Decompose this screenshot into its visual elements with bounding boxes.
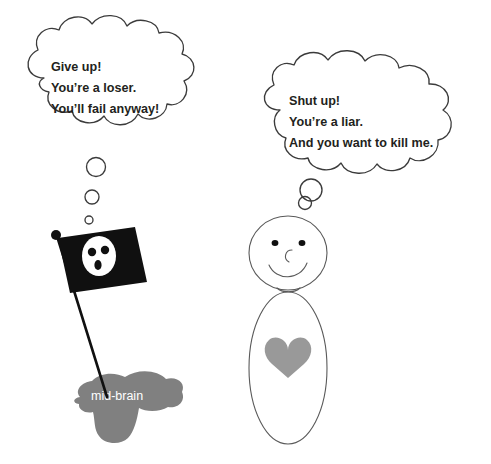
right-bubble-line-2: You’re a liar. <box>289 115 363 129</box>
illustration-canvas: Give up! You’re a loser. You’ll fail any… <box>0 0 491 464</box>
mid-brain-blob <box>74 371 183 443</box>
mid-brain-figure: mid-brain <box>51 227 183 443</box>
person-smile <box>269 263 307 277</box>
scene-svg: Give up! You’re a loser. You’ll fail any… <box>0 0 491 464</box>
person-eye-left <box>272 240 279 246</box>
right-bubble-outline <box>264 51 451 174</box>
left-bubble-line-2: You’re a loser. <box>51 81 136 95</box>
heart-icon <box>265 338 312 378</box>
skull-cranium <box>82 236 116 276</box>
skull-eye-left <box>88 248 96 256</box>
skull-nose <box>94 260 101 270</box>
left-bubble-tail-circle-1 <box>87 158 106 177</box>
left-bubble-tail-circle-2 <box>85 190 99 204</box>
stick-person <box>249 216 327 444</box>
skull-icon <box>82 236 116 276</box>
right-bubble-line-3: And you want to kill me. <box>289 136 433 150</box>
mid-brain-label: mid-brain <box>91 389 143 403</box>
person-nose <box>285 250 292 262</box>
person-eye-right <box>299 240 306 246</box>
left-bubble-line-1: Give up! <box>51 60 101 74</box>
right-bubble-line-1: Shut up! <box>289 94 340 108</box>
left-bubble-tail-circle-3 <box>85 216 93 224</box>
right-bubble-tail-circle-1 <box>300 179 322 201</box>
person-head <box>249 216 327 290</box>
left-bubble-line-3: You’ll fail anyway! <box>51 102 159 116</box>
left-thought-bubble: Give up! You’re a loser. You’ll fail any… <box>28 16 194 224</box>
right-thought-bubble: Shut up! You’re a liar. And you want to … <box>264 51 451 210</box>
skull-eye-right <box>101 246 109 254</box>
